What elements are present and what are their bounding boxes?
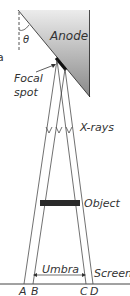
point-d-label: D bbox=[90, 286, 98, 296]
point-a-label: A bbox=[19, 286, 27, 296]
anode-label: Anode bbox=[50, 30, 88, 42]
screen-label: Screen bbox=[94, 268, 130, 279]
point-c-label: C bbox=[80, 286, 88, 296]
point-b-label: B bbox=[31, 286, 39, 296]
theta-label: θ bbox=[23, 35, 29, 45]
umbra-label: Umbra bbox=[42, 264, 79, 275]
object-label: Object bbox=[84, 198, 120, 209]
fragment-label: a bbox=[0, 52, 4, 63]
theta-arc bbox=[19, 25, 29, 30]
x-rays-label: X-rays bbox=[80, 122, 114, 133]
spot-label: spot bbox=[14, 87, 38, 98]
focal-label: Focal bbox=[14, 73, 43, 84]
object-bar bbox=[40, 200, 80, 206]
diagram-canvas bbox=[0, 0, 130, 296]
